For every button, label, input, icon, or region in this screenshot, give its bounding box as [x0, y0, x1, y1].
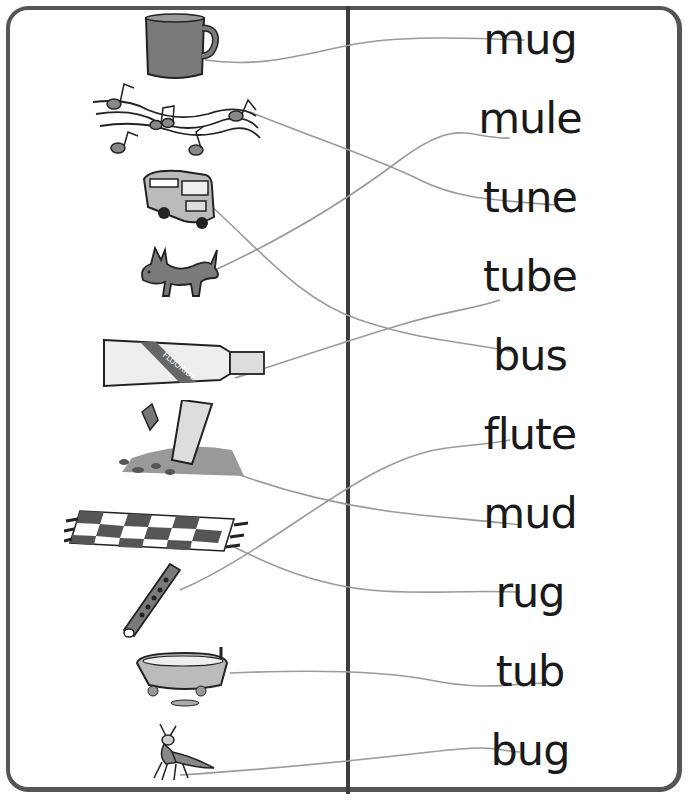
mug-picture[interactable] [140, 12, 220, 84]
word-flute[interactable]: flute [440, 413, 620, 456]
toothpaste-tube-picture[interactable]: FLUORIDE [100, 334, 270, 392]
word-mule[interactable]: mule [440, 97, 620, 140]
bus-picture[interactable] [140, 165, 220, 235]
word-bus[interactable]: bus [440, 334, 620, 377]
rug-picture[interactable] [64, 505, 254, 557]
mud-picture[interactable] [112, 400, 247, 478]
flute-picture[interactable] [120, 560, 190, 640]
word-mug[interactable]: mug [440, 18, 620, 61]
bug-picture[interactable] [152, 722, 222, 782]
word-mud[interactable]: mud [440, 492, 620, 535]
word-bug[interactable]: bug [440, 729, 620, 772]
column-divider [346, 6, 350, 794]
word-tube[interactable]: tube [440, 255, 620, 298]
mule-picture[interactable] [135, 238, 225, 298]
word-tune[interactable]: tune [440, 176, 620, 219]
word-tub[interactable]: tub [440, 650, 620, 693]
word-rug[interactable]: rug [440, 571, 620, 614]
bathtub-picture[interactable] [135, 645, 235, 707]
music-notes-picture[interactable] [88, 80, 263, 160]
